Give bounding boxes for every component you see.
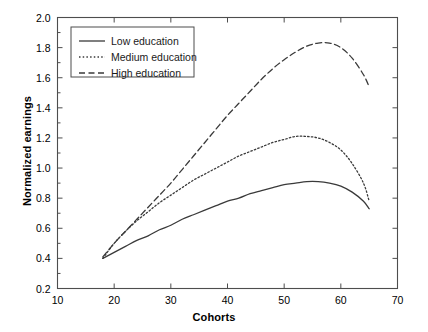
x-tick-label: 60: [335, 294, 347, 306]
x-axis-tick-labels: 10203040506070: [52, 294, 404, 306]
x-tick-label: 30: [165, 294, 177, 306]
line-chart-plot: 10203040506070 0.20.40.60.81.01.21.41.61…: [0, 0, 428, 332]
series-line: [103, 136, 369, 258]
y-tick-label: 1.4: [36, 102, 51, 114]
y-tick-label: 1.2: [36, 132, 51, 144]
y-tick-label: 0.8: [36, 192, 51, 204]
x-tick-label: 10: [52, 294, 64, 306]
legend-label: High education: [111, 67, 181, 79]
x-tick-label: 20: [108, 294, 120, 306]
y-tick-label: 0.6: [36, 222, 51, 234]
y-tick-label: 0.4: [36, 252, 51, 264]
y-tick-label: 2.0: [36, 12, 51, 24]
y-axis-tick-labels: 0.20.40.60.81.01.21.41.61.82.0: [36, 12, 51, 295]
y-tick-label: 1.8: [36, 42, 51, 54]
y-tick-label: 1.0: [36, 162, 51, 174]
x-tick-label: 70: [392, 294, 404, 306]
x-tick-label: 50: [278, 294, 290, 306]
x-tick-label: 40: [222, 294, 234, 306]
chart-figure: 10203040506070 0.20.40.60.81.01.21.41.61…: [0, 0, 428, 332]
y-tick-label: 1.6: [36, 72, 51, 84]
y-tick-label: 0.2: [36, 283, 51, 295]
chart-legend: Low educationMedium educationHigh educat…: [71, 27, 197, 79]
legend-label: Low education: [111, 35, 179, 47]
y-axis-title: Normalized earnings: [21, 61, 33, 241]
series-line: [103, 181, 369, 258]
legend-label: Medium education: [111, 51, 197, 63]
x-axis-title: Cohorts: [0, 311, 428, 323]
